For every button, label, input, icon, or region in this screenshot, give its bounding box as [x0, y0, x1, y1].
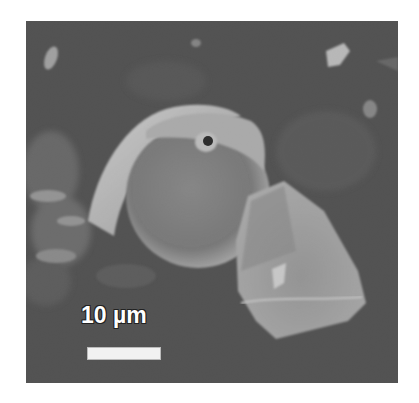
scale-bar [88, 348, 160, 359]
sem-micrograph: 10 µm [26, 21, 398, 383]
micrograph-image [26, 21, 398, 383]
scale-bar-label: 10 µm [81, 304, 147, 327]
